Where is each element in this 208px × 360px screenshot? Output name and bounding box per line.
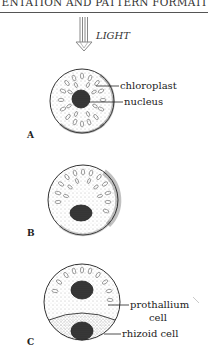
cell-a	[50, 69, 123, 133]
panel-label-b: B	[27, 228, 35, 238]
light-label: LIGHT	[96, 30, 130, 41]
nucleus-rhizoid	[71, 322, 93, 340]
prothallium-label: prothallium	[130, 300, 189, 310]
panel-label-a: A	[27, 130, 34, 140]
rhizoid-cell-label: rhizoid cell	[122, 329, 178, 339]
nucleus-label: nucleus	[124, 97, 163, 107]
light-arrow-icon	[76, 17, 92, 51]
panel-label-c: C	[27, 337, 34, 347]
cell-c	[44, 264, 129, 341]
nucleus-a	[72, 90, 90, 108]
nucleus-b	[70, 205, 92, 221]
nucleus-prothallium	[71, 281, 93, 299]
chloroplast-label: chloroplast	[120, 81, 177, 91]
cell-b	[48, 165, 118, 235]
prothallium-cell-label: cell	[149, 313, 167, 323]
